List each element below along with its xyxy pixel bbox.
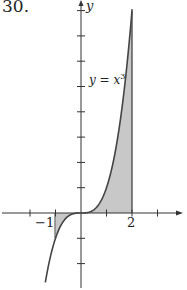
tick-label-neg1: −1 [35,215,54,230]
tick-label-2: 2 [127,215,135,230]
y-axis-arrow-icon [79,0,84,6]
curve-label: y = x3 [89,72,125,87]
curve-label-exponent: 3 [120,72,125,81]
curve-label-text: y = x [89,73,120,87]
x-axis-arrow-icon [176,211,183,216]
cubic-area-plot [0,0,187,290]
y-axis-label: y [86,0,93,13]
